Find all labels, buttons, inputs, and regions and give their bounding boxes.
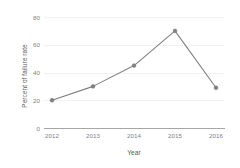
x-tick-label: 2014	[119, 131, 149, 140]
x-tick-label: 2012	[37, 131, 67, 140]
x-axis-tick-labels: 2012 2013 2014 2015 2016	[44, 131, 224, 141]
data-point	[132, 64, 136, 68]
y-tick-label: 20	[26, 97, 40, 104]
x-axis-title: Year	[44, 148, 224, 157]
x-tick-label: 2015	[160, 131, 190, 140]
x-tick-label: 2016	[201, 131, 231, 140]
data-point	[50, 98, 54, 102]
y-axis-tick-labels: 80 60 40 20 0	[26, 0, 40, 168]
x-axis-line	[44, 128, 225, 129]
data-point	[214, 86, 218, 90]
line-chart-figure: Percent of failure rate 80 60 40 20 0 20…	[0, 0, 240, 168]
plot-area	[44, 17, 224, 128]
y-tick-label: 40	[26, 69, 40, 76]
x-tick-label: 2013	[78, 131, 108, 140]
data-point	[91, 84, 95, 88]
y-tick-label: 60	[26, 41, 40, 48]
data-series-group	[44, 17, 224, 128]
series-markers	[50, 29, 218, 102]
data-point	[173, 29, 177, 33]
y-tick-label: 80	[26, 14, 40, 21]
